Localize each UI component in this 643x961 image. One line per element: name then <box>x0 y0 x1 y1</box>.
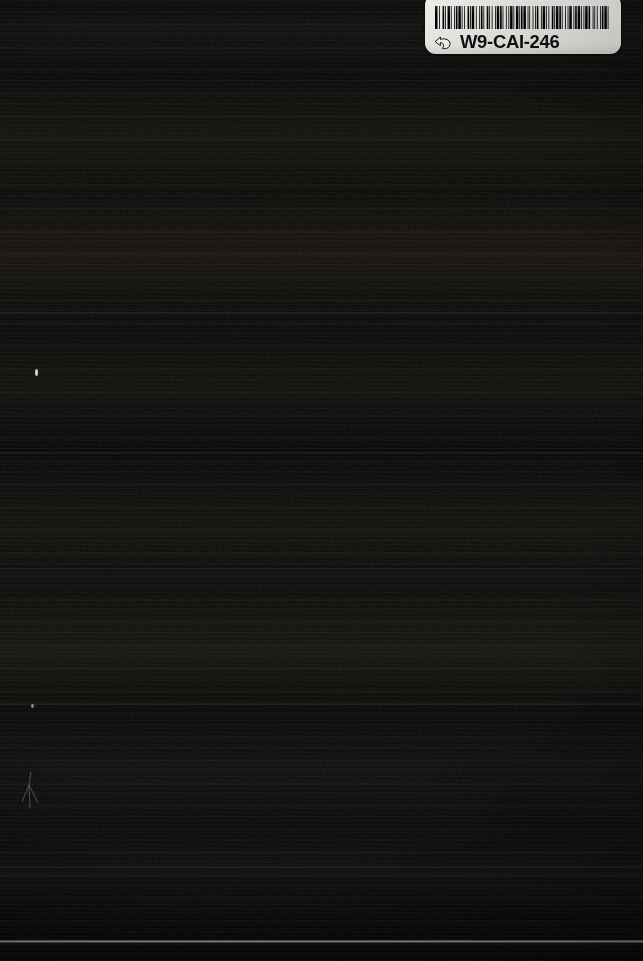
grain-texture <box>0 0 643 961</box>
barcode-label[interactable]: W9-CAI-246 <box>425 0 621 54</box>
dust-speck-artifact <box>35 369 38 376</box>
book-cover-photo: W9-CAI-246 <box>0 0 643 961</box>
light-streak <box>0 312 643 314</box>
light-streak <box>0 866 643 868</box>
label-bottom-row: W9-CAI-246 <box>434 30 611 52</box>
light-streak <box>0 452 643 454</box>
scratch-artifact <box>18 772 44 808</box>
light-streak <box>0 568 643 569</box>
light-streak <box>0 703 643 705</box>
pointing-hand-icon <box>434 33 453 50</box>
barcode-icon <box>435 6 611 29</box>
dust-speck-artifact <box>31 704 34 708</box>
label-code-text: W9-CAI-246 <box>460 32 560 51</box>
bottom-light-streak <box>0 940 643 943</box>
